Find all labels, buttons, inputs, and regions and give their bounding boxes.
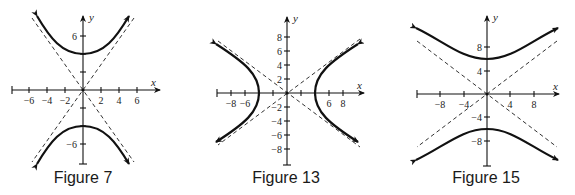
figure-caption: Figure 13 bbox=[248, 169, 324, 187]
y-tick-label: 6 bbox=[72, 31, 77, 42]
y-tick-label: 8 bbox=[277, 32, 282, 43]
y-axis-label: y bbox=[492, 11, 498, 23]
x-tick-label: −4 bbox=[459, 99, 470, 110]
x-tick-label: 2 bbox=[99, 95, 104, 106]
y-tick-label: −6 bbox=[66, 139, 77, 150]
y-tick-label: 4 bbox=[477, 66, 482, 77]
y-tick-label: 2 bbox=[277, 74, 282, 85]
y-axis-label: y bbox=[88, 11, 94, 23]
y-tick-label: −6 bbox=[271, 130, 282, 141]
y-tick-label: −2 bbox=[271, 102, 282, 113]
figure-15: −8 −4 4 8 8 4 −4 −8 x y Figure 15 bbox=[385, 0, 575, 195]
x-tick-label: 6 bbox=[327, 98, 332, 109]
origin-dot bbox=[485, 92, 488, 95]
y-tick-label: −8 bbox=[471, 136, 482, 147]
figure-13-plot: −8 −6 6 8 8 6 4 2 −2 −4 −6 −8 x y bbox=[190, 0, 380, 195]
figure-15-plot: −8 −4 4 8 8 4 −4 −8 x y bbox=[385, 0, 575, 195]
y-tick-label: 6 bbox=[277, 46, 282, 57]
y-axis bbox=[483, 16, 491, 166]
x-tick-label: 8 bbox=[341, 98, 346, 109]
figure-7-plot: −6 −4 −2 2 4 6 6 −6 x y bbox=[0, 0, 190, 195]
x-axis bbox=[217, 89, 364, 97]
y-axis-label: y bbox=[292, 12, 298, 24]
x-tick-label: −6 bbox=[240, 98, 251, 109]
y-tick-label: −4 bbox=[471, 112, 482, 123]
x-tick-label: −4 bbox=[42, 95, 53, 106]
x-tick-label: 6 bbox=[135, 95, 140, 106]
y-tick-label: 8 bbox=[477, 42, 482, 53]
x-axis bbox=[12, 86, 160, 94]
x-tick-label: 8 bbox=[532, 99, 537, 110]
x-tick-label: 4 bbox=[508, 99, 513, 110]
x-axis-label: x bbox=[356, 79, 362, 91]
figure-caption: Figure 7 bbox=[50, 169, 116, 187]
y-tick-label: 4 bbox=[277, 60, 282, 71]
origin-dot bbox=[285, 91, 288, 94]
x-tick-label: −2 bbox=[60, 95, 71, 106]
y-tick-label: −8 bbox=[271, 144, 282, 155]
x-tick-label: −8 bbox=[226, 98, 237, 109]
y-tick-label: −4 bbox=[271, 116, 282, 127]
x-tick-label: −8 bbox=[435, 99, 446, 110]
x-tick-label: −6 bbox=[24, 95, 35, 106]
figure-7: −6 −4 −2 2 4 6 6 −6 x y Figure 7 bbox=[0, 0, 190, 195]
origin-dot bbox=[81, 88, 84, 91]
figure-13: −8 −6 6 8 8 6 4 2 −2 −4 −6 −8 x y Figure… bbox=[190, 0, 380, 195]
figure-caption: Figure 15 bbox=[448, 169, 524, 187]
x-axis-label: x bbox=[150, 76, 156, 88]
x-axis-label: x bbox=[552, 80, 558, 92]
x-tick-label: 4 bbox=[117, 95, 122, 106]
